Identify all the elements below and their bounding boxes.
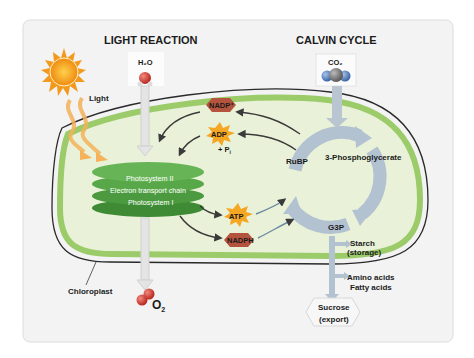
light-label: Light xyxy=(89,94,109,103)
light-reaction-title: LIGHT REACTION xyxy=(104,34,198,46)
photosystem-i-label: Photosystem I xyxy=(128,198,174,207)
photosystem-ii-label: Photosystem II xyxy=(126,174,174,183)
g3p-label: G3P xyxy=(328,223,345,232)
starch-storage-label: (storage) xyxy=(347,248,382,257)
starch-label: Starch xyxy=(350,239,375,248)
svg-text:ADP: ADP xyxy=(211,130,227,139)
sucrose-label: Sucrose xyxy=(318,303,350,312)
pga-label: 3-Phosphoglycerate xyxy=(325,153,402,162)
photosynthesis-diagram: LIGHT REACTION CALVIN CYCLE Light H₂O Ph… xyxy=(0,0,474,358)
amino-acids-label: Amino acids xyxy=(347,273,395,282)
sucrose-export-label: (export) xyxy=(319,315,349,324)
water-label: H₂O xyxy=(138,58,153,67)
chloroplast-label: Chloroplast xyxy=(68,287,113,296)
svg-text:NADP⁺: NADP⁺ xyxy=(209,101,234,110)
svg-text:ATP: ATP xyxy=(229,212,243,221)
svg-text:NADPH: NADPH xyxy=(227,236,254,245)
fatty-acids-label: Fatty acids xyxy=(350,283,392,292)
co2-label: CO₂ xyxy=(328,58,343,67)
calvin-cycle-title: CALVIN CYCLE xyxy=(296,34,376,46)
rubp-label: RuBP xyxy=(286,157,308,166)
nadph-badge: NADPH xyxy=(224,233,254,247)
phosphate-label: + Pi xyxy=(218,145,231,155)
electron-transport-label: Electron transport chain xyxy=(110,186,186,195)
nadp-plus-badge: NADP⁺ xyxy=(206,98,236,112)
